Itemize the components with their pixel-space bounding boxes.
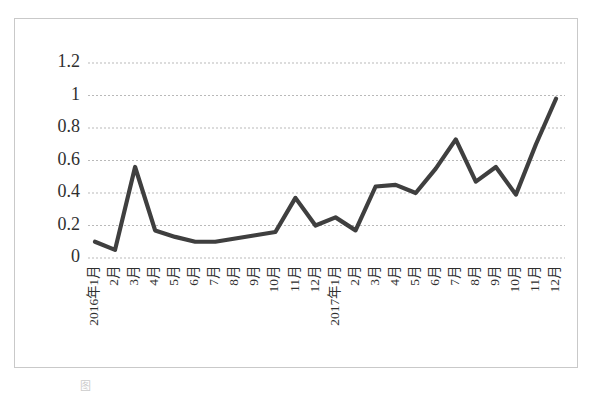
gridlines-group xyxy=(88,63,565,258)
y-axis-tick-label: 0.4 xyxy=(58,181,81,201)
x-axis-tick-label: 9月 xyxy=(487,266,502,286)
x-axis-tick-label: 2016年1月 xyxy=(86,266,101,326)
x-axis-tick-label: 11月 xyxy=(527,266,542,292)
data-series-line xyxy=(95,99,556,250)
line-chart: 1.210.80.60.40.20 2016年1月2月3月4月5月6月7月8月9… xyxy=(0,0,596,393)
x-axis-tick-label: 6月 xyxy=(186,266,201,286)
x-axis-tick-label: 2017年1月 xyxy=(327,266,342,326)
y-axis-tick-labels: 1.210.80.60.40.20 xyxy=(58,51,81,266)
x-axis-tick-label: 4月 xyxy=(146,266,161,286)
x-axis-tick-label: 11月 xyxy=(287,266,302,292)
x-axis-tick-label: 8月 xyxy=(226,266,241,286)
x-axis-tick-label: 3月 xyxy=(367,266,382,286)
x-axis-tick-label: 4月 xyxy=(387,266,402,286)
x-axis-tick-label: 3月 xyxy=(126,266,141,286)
y-axis-tick-label: 0 xyxy=(71,246,80,266)
y-axis-tick-label: 0.2 xyxy=(58,214,81,234)
y-axis-tick-label: 0.8 xyxy=(58,116,81,136)
y-axis-tick-label: 1.2 xyxy=(58,51,81,71)
x-axis-tick-label: 12月 xyxy=(547,266,562,293)
y-axis-tick-label: 1 xyxy=(71,84,80,104)
x-axis-tick-label: 6月 xyxy=(427,266,442,286)
x-axis-tick-label: 7月 xyxy=(206,266,221,286)
x-axis-tick-label: 7月 xyxy=(447,266,462,286)
x-axis-tick-label: 2月 xyxy=(106,266,121,286)
figure-root: 1.210.80.60.40.20 2016年1月2月3月4月5月6月7月8月9… xyxy=(0,0,596,393)
x-axis-tick-label: 5月 xyxy=(166,266,181,286)
figure-caption: 图 xyxy=(80,377,520,391)
x-axis-tick-label: 10月 xyxy=(266,266,281,293)
x-axis-tick-labels: 2016年1月2月3月4月5月6月7月8月9月10月11月12月2017年1月2… xyxy=(86,266,562,326)
y-axis-tick-label: 0.6 xyxy=(58,149,81,169)
x-axis-tick-label: 10月 xyxy=(507,266,522,293)
x-axis-tick-label: 9月 xyxy=(246,266,261,286)
x-axis-tick-label: 2月 xyxy=(347,266,362,286)
x-axis-tick-label: 8月 xyxy=(467,266,482,286)
x-axis-tick-label: 5月 xyxy=(407,266,422,286)
x-axis-tick-label: 12月 xyxy=(307,266,322,293)
